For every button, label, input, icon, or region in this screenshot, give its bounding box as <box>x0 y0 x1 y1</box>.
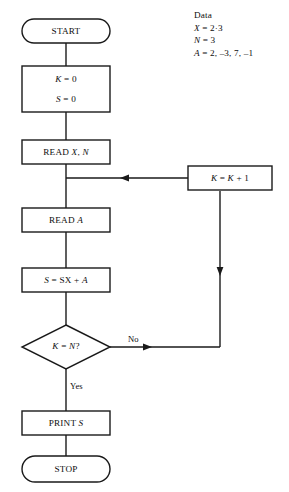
node-test-label: K = N? <box>22 342 110 352</box>
node-init-line2: S = 0 <box>22 95 110 105</box>
flowchart-page: START K = 0 S = 0 READ X, N READ A S = S… <box>0 0 289 492</box>
node-read-xn-label: READ X, N <box>22 148 110 158</box>
no-branch-arrowhead-icon <box>143 344 152 351</box>
node-print-label: PRINT S <box>22 419 110 429</box>
node-read-a-label: READ A <box>22 216 110 226</box>
node-incr-label: K = K + 1 <box>188 174 272 184</box>
riser-arrowhead-icon <box>217 267 224 276</box>
edge-label-no: No <box>128 334 139 344</box>
edge-label-yes: Yes <box>70 381 83 391</box>
data-note-heading: Data <box>194 9 253 22</box>
node-accum-label: S = SX + A <box>22 276 110 286</box>
data-note-block: Data X = 2·3 N = 3 A = 2, –3, 7, –1 <box>194 9 253 60</box>
data-note-line-n: N = 3 <box>194 34 253 47</box>
node-init-label: K = 0 S = 0 <box>22 75 110 104</box>
data-note-line-a: A = 2, –3, 7, –1 <box>194 47 253 60</box>
data-note-line-x: X = 2·3 <box>194 22 253 35</box>
loopback-arrowhead-icon <box>120 175 129 182</box>
node-init-line1: K = 0 <box>22 75 110 85</box>
node-start-label: START <box>22 27 110 37</box>
node-stop-label: STOP <box>22 465 110 475</box>
